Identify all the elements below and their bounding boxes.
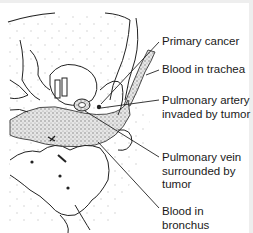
leader-blood-in-trachea <box>146 70 159 75</box>
label-pulmonary-vein: Pulmonary vein surrounded by tumor <box>162 151 241 192</box>
primary-cancer-dot <box>97 105 101 109</box>
label-primary-cancer: Primary cancer <box>162 35 239 49</box>
label-blood-in-trachea: Blood in trachea <box>162 63 245 77</box>
label-blood-in-bronchus: Blood in bronchus <box>162 205 253 232</box>
label-pulmonary-artery: Pulmonary artery invaded by tumor <box>162 94 250 121</box>
